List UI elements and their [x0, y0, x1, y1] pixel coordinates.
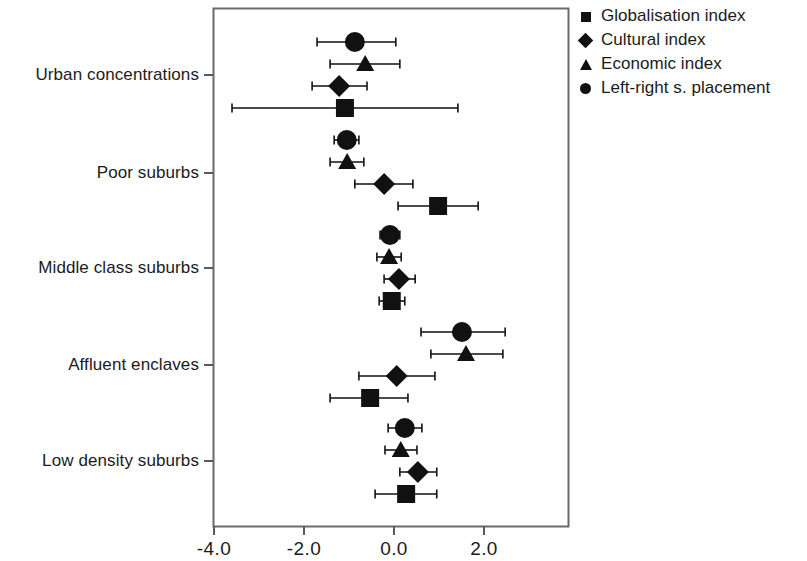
data-point — [355, 173, 413, 195]
x-axis-tick-label-neg2: -2.0 — [287, 538, 321, 560]
legend-label: Cultural index — [601, 30, 706, 50]
legend-item-left-right-s-placement: Left-right s. placement — [578, 76, 804, 100]
data-point — [400, 461, 437, 483]
data-point — [380, 225, 400, 245]
legend-item-economic-index: Economic index — [578, 52, 804, 76]
data-point — [334, 130, 359, 150]
forest-plot-figure: Urban concentrations Poor suburbs Middle… — [0, 0, 807, 561]
square-marker-icon — [578, 8, 594, 24]
y-axis-label-affluent-enclaves: Affluent enclaves — [68, 355, 199, 375]
data-point — [330, 389, 408, 407]
data-point — [385, 441, 417, 457]
x-axis-tick-label-pos2: 2.0 — [470, 538, 498, 560]
data-point — [421, 322, 505, 342]
data-point — [317, 32, 396, 52]
y-axis-label-poor-suburbs: Poor suburbs — [97, 163, 199, 183]
data-point — [330, 153, 364, 169]
data-point — [312, 75, 367, 97]
triangle-marker-icon — [578, 56, 594, 72]
data-point — [379, 292, 405, 310]
y-axis-label-low-density-suburbs: Low density suburbs — [42, 451, 199, 471]
data-point — [359, 365, 435, 387]
data-point — [398, 197, 478, 215]
legend-label: Left-right s. placement — [601, 78, 770, 98]
y-axis-label-middle-class-suburbs: Middle class suburbs — [38, 258, 199, 278]
data-point — [232, 99, 458, 117]
data-point — [377, 248, 401, 264]
legend: Globalisation index Cultural index Econo… — [578, 4, 804, 100]
legend-label: Economic index — [601, 54, 722, 74]
diamond-marker-icon — [578, 32, 594, 48]
legend-label: Globalisation index — [601, 6, 746, 26]
x-axis-tick-label-zero: 0.0 — [380, 538, 408, 560]
y-axis-label-urban-concentrations: Urban concentrations — [35, 65, 199, 85]
circle-marker-icon — [578, 80, 594, 96]
data-point — [431, 345, 503, 361]
data-point — [388, 418, 422, 438]
legend-item-cultural-index: Cultural index — [578, 28, 804, 52]
legend-item-globalisation-index: Globalisation index — [578, 4, 804, 28]
data-point — [375, 485, 437, 503]
data-point — [384, 268, 415, 290]
data-point — [330, 55, 400, 71]
x-axis-tick-label-neg4: -4.0 — [197, 538, 231, 560]
